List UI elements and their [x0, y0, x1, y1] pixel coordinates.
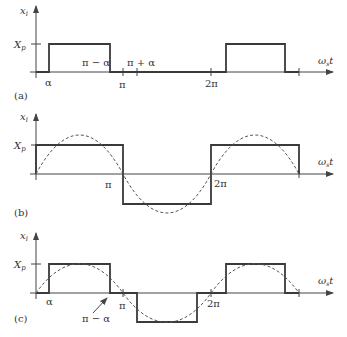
- panel-b: xi Xp ωst π 2π (b): [13, 111, 334, 218]
- pi-minus-alpha-label-c: π − α: [82, 313, 110, 324]
- pi-minus-alpha-label-a: π − α: [82, 57, 110, 68]
- pulse-waveform-a: [36, 44, 299, 72]
- xp-label-c: Xp: [13, 259, 26, 272]
- xp-label-a: Xp: [13, 39, 26, 52]
- y-label-b: xi: [20, 111, 28, 124]
- pi-label-a: π: [119, 79, 126, 90]
- x-label-c: ωst: [318, 275, 334, 287]
- alpha-label-c: α: [46, 296, 53, 307]
- panel-a: xi Xp ωst α π − α π π + α 2π (a): [13, 5, 334, 101]
- panel-tag-b: (b): [14, 207, 28, 218]
- y-label-a: xi: [20, 5, 28, 18]
- two-pi-label-a: 2π: [205, 78, 218, 89]
- x-label-b: ωst: [318, 156, 334, 168]
- waveform-figure: xi Xp ωst α π − α π π + α 2π (a) xi Xp ω…: [0, 0, 347, 337]
- panel-c: xi Xp ωst α π − α π 2π (c): [13, 230, 334, 324]
- y-label-c: xi: [20, 230, 28, 243]
- panel-tag-c: (c): [14, 313, 28, 324]
- alpha-label-a: α: [45, 77, 52, 88]
- pi-label-c: π: [119, 300, 126, 311]
- pi-label-b: π: [105, 179, 112, 190]
- panel-tag-a: (a): [14, 90, 28, 101]
- two-pi-label-b: 2π: [214, 178, 227, 189]
- pointer-arrow-c: [93, 298, 107, 313]
- pi-plus-alpha-label-a: π + α: [127, 57, 155, 68]
- x-label-a: ωst: [318, 55, 334, 67]
- xp-label-b: Xp: [13, 140, 26, 153]
- two-pi-label-c: 2π: [207, 298, 220, 309]
